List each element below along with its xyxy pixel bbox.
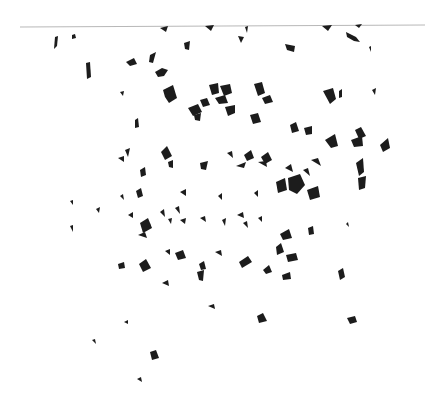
fragment bbox=[358, 176, 366, 190]
white-background bbox=[0, 0, 434, 402]
scattered-fragments-canvas bbox=[0, 0, 434, 402]
debris-photo bbox=[0, 0, 434, 402]
